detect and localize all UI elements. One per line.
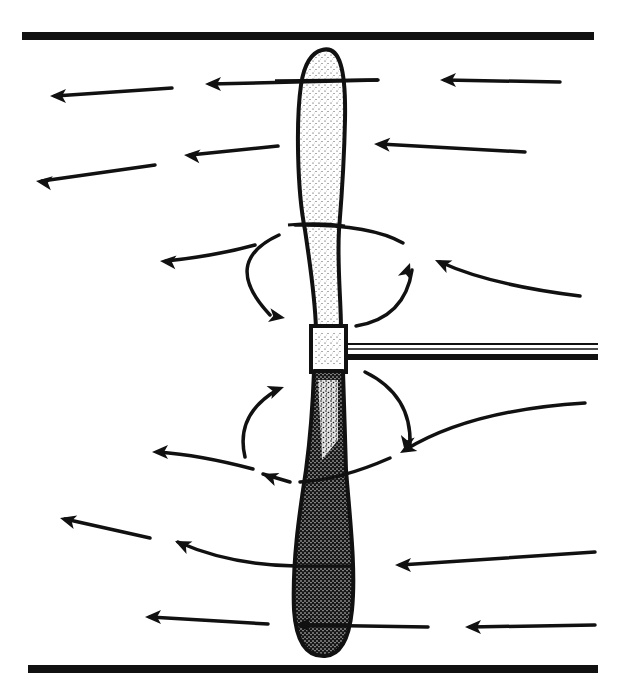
arrowhead-icon	[35, 174, 53, 190]
diagram-canvas	[0, 0, 628, 697]
arrowhead-icon	[432, 254, 452, 273]
flow-arrow	[374, 137, 525, 152]
propeller-blade-lower	[294, 371, 354, 656]
propeller-blade-upper	[275, 49, 378, 329]
flow-arrow	[432, 254, 580, 296]
flow-arrow	[397, 403, 586, 459]
vortex-arrow	[365, 372, 415, 453]
flow-arrow	[35, 165, 155, 190]
flow-arrow	[465, 620, 595, 634]
vortex-arrow	[247, 235, 286, 325]
propeller-airflow-diagram	[0, 0, 628, 697]
flow-arrow	[183, 146, 278, 163]
vortex-arrow	[243, 380, 286, 457]
flow-arrow	[440, 73, 560, 87]
flow-arrow	[159, 245, 255, 269]
arrowhead-icon	[172, 535, 192, 554]
flow-arrow	[152, 445, 253, 469]
flow-arrow	[172, 535, 296, 566]
arrowhead-icon	[398, 261, 417, 281]
flow-arrow	[260, 467, 290, 486]
flow-arrow	[58, 511, 150, 538]
flow-arrow	[395, 552, 595, 572]
arrowhead-icon	[268, 308, 286, 325]
flow-arrow	[50, 88, 172, 103]
flow-arrow	[145, 610, 268, 624]
drive-shaft	[345, 344, 598, 357]
propeller-hub	[311, 326, 346, 372]
vortex-arrow	[356, 261, 417, 326]
